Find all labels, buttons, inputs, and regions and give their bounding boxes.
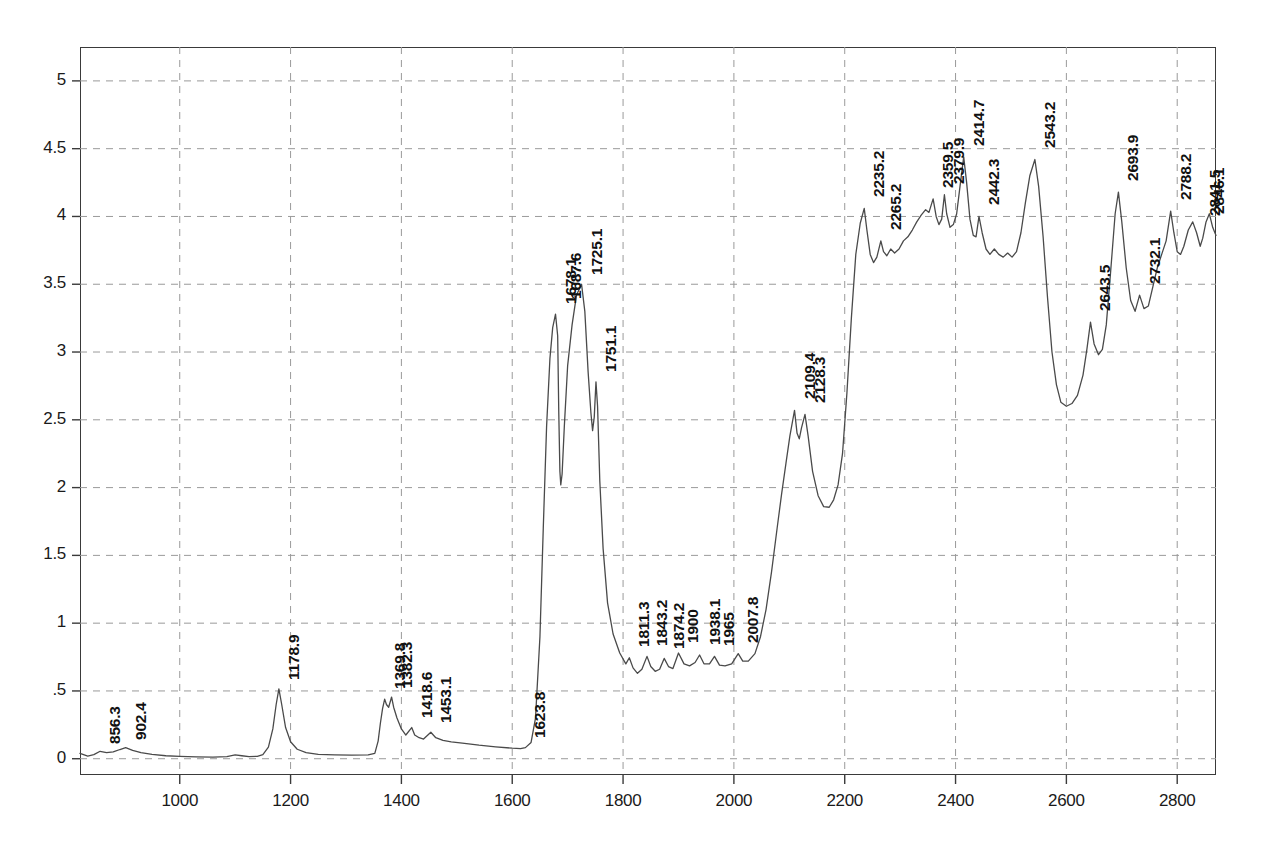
x-tick-label: 1200 [256,791,326,811]
peak-label: 1418.6 [418,672,436,718]
peak-label: 1843.2 [653,600,671,646]
peak-label: 1725.1 [588,228,606,274]
peak-label: 1453.1 [437,677,455,723]
x-tick-label: 1600 [477,791,547,811]
x-tick-label: 1400 [366,791,436,811]
peak-label: 902.4 [132,702,150,740]
peak-label: 2693.9 [1124,135,1142,181]
peak-label: 856.3 [106,706,124,744]
peak-label: 2732.1 [1146,238,1164,284]
y-tick-label: .5 [16,680,66,700]
peak-label: 1751.1 [602,326,620,372]
peak-label: 2128.3 [811,357,829,403]
peak-label: 1900 [684,610,702,644]
peak-label: 1811.3 [635,602,653,647]
peak-label: 1382.3 [398,642,416,688]
peak-label: 2007.8 [744,597,762,643]
peak-label: 1965 [720,612,738,646]
peak-label: 2788.2 [1177,154,1195,200]
x-tick-label: 2200 [810,791,880,811]
y-tick-label: 2 [16,477,66,497]
peak-label: 1687.6 [567,253,585,299]
y-tick-label: 3 [16,341,66,361]
x-tick-label: 2800 [1142,791,1212,811]
x-tick-label: 1000 [145,791,215,811]
peak-label: 2265.2 [887,184,905,230]
x-tick-label: 1800 [588,791,658,811]
peak-label: 2235.2 [870,151,888,197]
peak-label: 2379.9 [950,137,968,183]
y-tick-label: 0 [16,748,66,768]
y-tick-label: 4.5 [16,138,66,158]
y-tick-label: 4 [16,205,66,225]
y-tick-label: 3.5 [16,273,66,293]
spectrum-curve-layer [0,0,1268,845]
x-tick-label: 2600 [1031,791,1101,811]
y-tick-label: 1 [16,612,66,632]
peak-label: 2543.2 [1041,102,1059,148]
peak-label: 1623.8 [531,692,549,738]
y-tick-label: 1.5 [16,544,66,564]
y-tick-label: 5 [16,70,66,90]
ir-spectrum-chart: 0.511.522.533.544.55 1000120014001600180… [0,0,1268,845]
spectrum-line [80,157,1216,757]
x-tick-label: 2400 [921,791,991,811]
peak-label: 1178.9 [285,635,303,680]
peak-label: 2414.7 [970,100,988,146]
x-tick-label: 2000 [699,791,769,811]
peak-label: 2643.5 [1096,265,1114,311]
y-tick-label: 2.5 [16,409,66,429]
peak-label: 2846.1 [1210,167,1228,213]
peak-label: 2442.3 [985,159,1003,205]
